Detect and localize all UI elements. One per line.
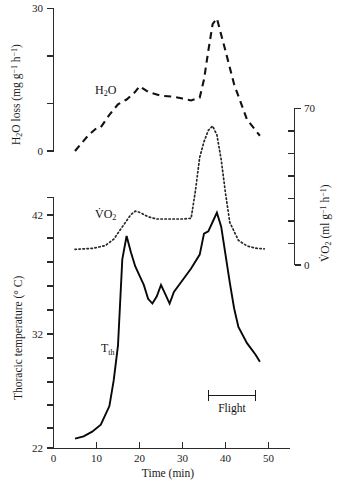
temp-tick-label-42: 42 [32,209,43,221]
h2o-series-label: H2O [95,83,117,98]
h2o-tick-label-0: 0 [38,145,44,157]
x-tick-label-30: 30 [177,452,189,464]
flight-label: Flight [218,402,246,415]
x-tick-label-20: 20 [134,452,146,464]
temp-left-axis-group: 42 32 22 [32,197,54,454]
vo2-axis-title: V̇O2 (ml g−1 h−1) [318,184,333,262]
x-tick-label-40: 40 [220,452,232,464]
vo2-curve [75,126,264,249]
x-tick-label-0: 0 [51,452,57,464]
x-tick-label-50: 50 [263,452,275,464]
temp-tick-label-22: 22 [32,442,43,454]
vo2-axis-title-group: V̇O2 (ml g−1 h−1) [318,184,333,262]
vo2-series-label: V̇O2 [95,207,116,222]
x-tick-label-10: 10 [91,452,103,464]
vo2-tick-label-70: 70 [304,102,316,114]
figure-container: 30 0 H2O loss (mg g−1 h−1) 70 0 V̇O2 (m [0,0,338,482]
flight-annotation-group: Flight [208,390,255,415]
temp-axis-title: Thoracic temperature (° C) [12,276,25,400]
tth-series-label: Tth [101,341,115,357]
vo2-tick-label-0: 0 [304,259,310,271]
vo2-right-axis-group: 70 0 [288,102,316,271]
temp-tick-label-32: 32 [32,328,43,340]
h2o-left-axis-group: 30 0 [32,2,54,157]
x-axis-group: 0 10 20 30 40 50 Time (min) [51,442,290,480]
h2o-tick-label-30: 30 [32,2,44,14]
x-axis-title: Time (min) [142,467,194,480]
h2o-axis-title: H2O loss (mg g−1 h−1) [10,44,24,145]
temp-axis-title-group: Thoracic temperature (° C) [12,276,25,400]
h2o-axis-title-group: H2O loss (mg g−1 h−1) [10,44,24,145]
chart-canvas: 30 0 H2O loss (mg g−1 h−1) 70 0 V̇O2 (m [0,0,338,482]
